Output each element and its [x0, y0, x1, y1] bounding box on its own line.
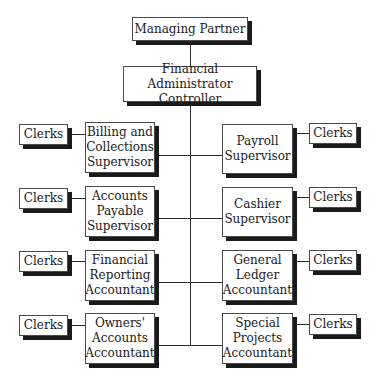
connector-row-4 — [155, 345, 222, 346]
billing-collections-supervisor-box: Billing and Collections Supervisor — [85, 122, 155, 173]
right-clerks-box-4: Clerks — [309, 314, 357, 335]
financial-reporting-accountant-box: Financial Reporting Accountant — [85, 250, 155, 301]
connector-left-clerks-2 — [68, 198, 85, 199]
connector-row-2 — [155, 218, 222, 219]
connector-left-clerks-4 — [68, 325, 85, 326]
connector-right-clerks-4 — [293, 324, 309, 325]
accounts-payable-supervisor-box: Accounts Payable Supervisor — [85, 186, 155, 237]
connector-left-clerks-3 — [68, 261, 85, 262]
managing-partner-box: Managing Partner — [132, 17, 248, 41]
right-clerks-box-2: Clerks — [309, 187, 357, 208]
connector-left-clerks-1 — [68, 134, 85, 135]
special-projects-accountant-box: Special Projects Accountant — [222, 313, 293, 364]
general-ledger-accountant-box: General Ledger Accountant — [222, 250, 293, 301]
connector-row-3 — [155, 282, 222, 283]
left-clerks-box-4: Clerks — [19, 315, 68, 336]
connector-row-1 — [155, 155, 222, 156]
right-clerks-box-1: Clerks — [309, 123, 357, 144]
connector-right-clerks-3 — [293, 261, 309, 262]
connector-main-spine — [190, 102, 191, 346]
left-clerks-box-3: Clerks — [19, 251, 68, 272]
left-clerks-box-1: Clerks — [19, 124, 68, 145]
connector-right-clerks-2 — [293, 197, 309, 198]
connector-right-clerks-1 — [293, 133, 309, 134]
right-clerks-box-3: Clerks — [309, 250, 357, 271]
owners-accounts-accountant-box: Owners' Accounts Accountant — [85, 313, 155, 364]
controller-box: Financial Administrator Controller — [123, 66, 257, 102]
cashier-supervisor-box: Cashier Supervisor — [222, 187, 293, 237]
left-clerks-box-2: Clerks — [19, 188, 68, 209]
payroll-supervisor-box: Payroll Supervisor — [222, 124, 293, 174]
